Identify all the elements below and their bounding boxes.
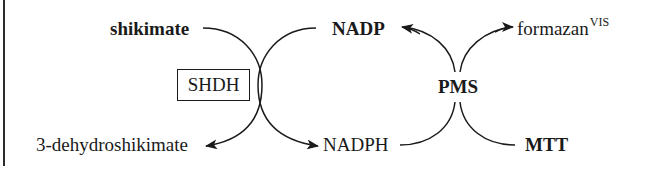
label-nadp: NADP <box>332 19 385 38</box>
label-formazan-superscript: VIS <box>590 15 609 29</box>
label-pms: PMS <box>438 77 478 96</box>
label-shikimate: shikimate <box>110 19 189 38</box>
label-formazan-text: formazan <box>517 18 589 39</box>
arrow-nadp-to-nadph <box>258 28 318 146</box>
label-3-dehydroshikimate: 3-dehydroshikimate <box>36 135 188 154</box>
label-nadph: NADPH <box>323 135 388 154</box>
label-mtt: MTT <box>525 135 568 154</box>
reaction-diagram: shikimate SHDH 3-dehydroshikimate NADP N… <box>0 0 654 169</box>
enzyme-box-shdh: SHDH <box>177 69 250 101</box>
label-formazan: formazanVIS <box>517 19 609 38</box>
label-shdh: SHDH <box>188 74 240 96</box>
